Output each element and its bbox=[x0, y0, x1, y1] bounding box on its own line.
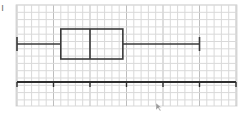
box-plot-chart bbox=[0, 0, 242, 132]
boxplot-worksheet: ı bbox=[0, 0, 242, 132]
corner-mark: ı bbox=[1, 2, 4, 13]
